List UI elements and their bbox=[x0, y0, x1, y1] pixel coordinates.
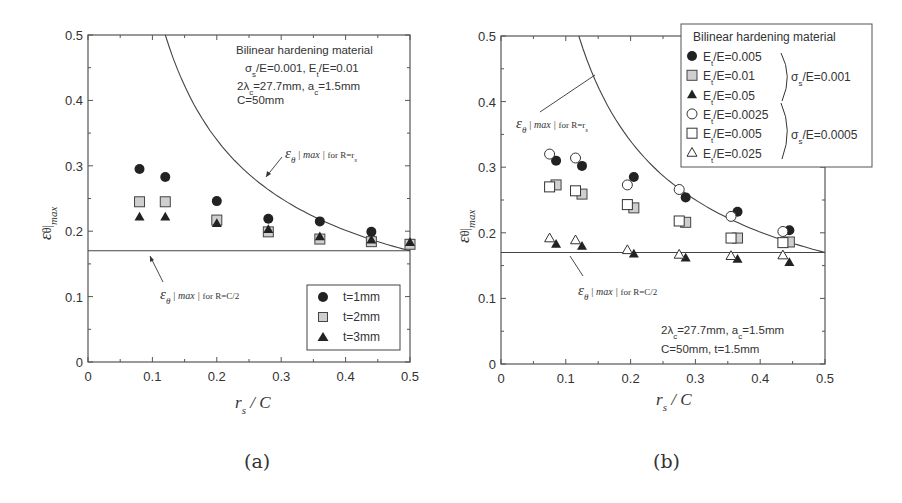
legend-marker-square-icon bbox=[319, 313, 328, 322]
y-tick-label: 0.2 bbox=[478, 226, 496, 241]
data-point bbox=[135, 212, 145, 221]
panel-a-chart: 00.10.20.30.40.500.10.20.30.40.5 Bilinea… bbox=[36, 28, 419, 472]
data-point bbox=[778, 238, 788, 248]
data-point bbox=[545, 182, 555, 192]
data-point bbox=[622, 245, 632, 254]
data-points bbox=[135, 164, 415, 249]
data-point bbox=[622, 200, 632, 210]
figure: 00.10.20.30.40.500.10.20.30.40.5 Bilinea… bbox=[0, 0, 902, 503]
y-axis-title: εθ|max bbox=[454, 209, 477, 243]
data-point bbox=[135, 197, 145, 207]
annotation-params: σs/E=0.001, Et/E=0.01 bbox=[245, 62, 359, 79]
curve-label-rs: εθ | max | for R=rs bbox=[285, 145, 357, 165]
y-tick-label: 0.4 bbox=[478, 95, 496, 110]
hline-label-c2: εθ | max | for R=C/2 bbox=[160, 286, 239, 306]
y-tick-label: 0.3 bbox=[65, 159, 83, 174]
x-axis-title: rs / C bbox=[235, 393, 271, 416]
legend-marker-icon bbox=[687, 109, 697, 119]
legend-marker-icon bbox=[687, 70, 697, 80]
x-tick-label: 0 bbox=[497, 371, 504, 386]
legend-item-t3: t=3mm bbox=[343, 330, 380, 344]
x-tick-label: 0.3 bbox=[272, 369, 290, 384]
curve-label-rs: εθ | max | for R=rs bbox=[516, 115, 588, 135]
data-point bbox=[674, 216, 684, 226]
annotation-material: Bilinear hardening material bbox=[236, 44, 373, 56]
data-point bbox=[545, 149, 555, 159]
panel-b-chart: 00.10.20.30.40.500.10.20.30.40.5 εθ | ma… bbox=[454, 24, 872, 472]
legend-title: Bilinear hardening material bbox=[693, 30, 836, 44]
legend-item-t2: t=2mm bbox=[343, 310, 380, 324]
y-tick-label: 0 bbox=[76, 355, 83, 370]
data-point bbox=[160, 172, 170, 182]
x-tick-label: 0.5 bbox=[816, 371, 834, 386]
x-tick-label: 0 bbox=[84, 369, 91, 384]
data-point bbox=[674, 249, 684, 258]
x-tick-label: 0.4 bbox=[751, 371, 769, 386]
x-tick-label: 0.4 bbox=[337, 369, 355, 384]
data-point bbox=[674, 185, 684, 195]
data-point bbox=[571, 186, 581, 196]
legend-item-t1: t=1mm bbox=[343, 290, 380, 304]
arrow-head-icon bbox=[150, 256, 154, 262]
hline-pointer-line bbox=[570, 256, 583, 276]
data-point bbox=[263, 214, 273, 224]
x-tick-label: 0.2 bbox=[622, 371, 640, 386]
x-tick-label: 0.1 bbox=[143, 369, 161, 384]
data-point bbox=[778, 250, 788, 259]
annotation-c: C=50mm bbox=[237, 94, 284, 106]
y-tick-label: 0 bbox=[489, 357, 496, 372]
y-tick-label: 0.3 bbox=[478, 160, 496, 175]
data-point bbox=[545, 233, 555, 242]
y-tick-label: 0.4 bbox=[65, 93, 83, 108]
curve-pointer-line bbox=[540, 75, 595, 112]
x-tick-label: 0.1 bbox=[557, 371, 575, 386]
data-point bbox=[160, 212, 170, 221]
caption-a: (a) bbox=[244, 450, 270, 472]
annotation-geometry: 2λc=27.7mm, ac=1.5mm bbox=[661, 324, 784, 341]
x-tick-label: 0.5 bbox=[401, 369, 419, 384]
legend-marker-circle-icon bbox=[318, 292, 328, 302]
y-tick-label: 0.5 bbox=[65, 28, 83, 43]
data-point bbox=[571, 235, 581, 244]
data-point bbox=[135, 164, 145, 174]
legend-marker-icon bbox=[687, 51, 697, 61]
x-tick-label: 0.3 bbox=[686, 371, 704, 386]
y-axis-title: εθ|max bbox=[36, 206, 59, 240]
y-tick-label: 0.1 bbox=[65, 290, 83, 305]
data-point bbox=[315, 216, 325, 226]
x-tick-label: 0.2 bbox=[208, 369, 226, 384]
annotation-c-t: C=50mm, t=1.5mm bbox=[661, 343, 759, 355]
y-tick-label: 0.5 bbox=[478, 29, 496, 44]
data-point bbox=[160, 197, 170, 207]
legend-marker-icon bbox=[687, 128, 697, 138]
y-tick-label: 0.1 bbox=[478, 291, 496, 306]
caption-b: (b) bbox=[653, 450, 680, 472]
data-point bbox=[726, 211, 736, 221]
data-point bbox=[571, 153, 581, 163]
data-point bbox=[622, 180, 632, 190]
x-axis-title: rs / C bbox=[656, 390, 692, 413]
hline-label-c2: εθ | max | for R=C/2 bbox=[578, 282, 657, 302]
y-tick-label: 0.2 bbox=[65, 224, 83, 239]
data-point bbox=[726, 233, 736, 243]
data-point bbox=[212, 196, 222, 206]
data-point bbox=[778, 226, 788, 236]
